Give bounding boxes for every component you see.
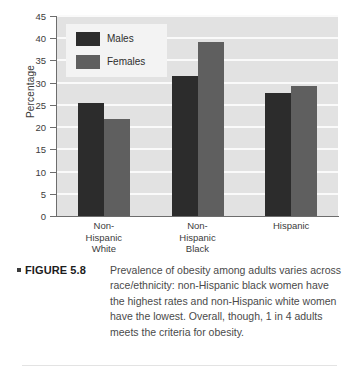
y-axis-tick-label: 35	[18, 55, 46, 66]
y-axis-line	[56, 16, 57, 217]
legend-label-males: Males	[107, 32, 134, 46]
y-axis-tick-label: 20	[18, 122, 46, 133]
y-axis-tick-label: 5	[18, 188, 46, 199]
y-axis-tick	[50, 105, 57, 106]
x-axis-line	[56, 216, 339, 217]
legend-swatch-males-icon	[76, 32, 100, 46]
caption-divider	[22, 365, 337, 366]
legend-swatch-females-icon	[76, 55, 100, 69]
y-axis-tick-label: 30	[18, 77, 46, 88]
y-axis-tick	[50, 216, 57, 217]
x-axis-label-2: Hispanic	[244, 220, 338, 232]
y-axis-tick	[50, 83, 57, 84]
bar-males-1	[172, 76, 198, 216]
y-axis-tick-label: 40	[18, 33, 46, 44]
figure-caption: FIGURE 5.8 Prevalence of obesity among a…	[17, 263, 342, 340]
y-axis-tick-label: 0	[18, 211, 46, 222]
x-axis-label-1: Non-HispanicBlack	[151, 220, 245, 255]
y-axis-tick	[50, 127, 57, 128]
legend-label-females: Females	[107, 55, 145, 69]
y-axis-tick-label: 10	[18, 166, 46, 177]
square-bullet-icon	[17, 268, 21, 272]
bar-females-0	[104, 119, 130, 216]
y-axis-tick	[50, 60, 57, 61]
bar-chart: Percentage 051015202530354045 Non-Hispan…	[0, 0, 359, 258]
figure-label: FIGURE 5.8	[17, 263, 86, 278]
y-axis-tick	[50, 38, 57, 39]
y-axis-tick-label: 25	[18, 99, 46, 110]
bar-females-1	[198, 42, 224, 216]
chart-legend: Males Females	[66, 24, 167, 77]
y-axis-tick	[50, 149, 57, 150]
y-axis-tick-label: 45	[18, 11, 46, 22]
figure-5-8: Percentage 051015202530354045 Non-Hispan…	[0, 0, 359, 388]
y-axis-tick	[50, 16, 57, 17]
y-axis-tick	[50, 194, 57, 195]
bar-females-2	[291, 86, 317, 216]
bar-males-0	[78, 103, 104, 216]
y-axis-tick	[50, 172, 57, 173]
figure-caption-text: Prevalence of obesity among adults varie…	[110, 263, 342, 340]
y-axis-tick-label: 15	[18, 144, 46, 155]
figure-label-text: FIGURE 5.8	[25, 264, 86, 276]
bar-males-2	[265, 93, 291, 216]
x-axis-label-0: Non-HispanicWhite	[57, 220, 151, 255]
